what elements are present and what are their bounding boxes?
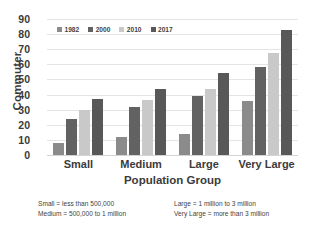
legend-swatch-icon [151, 27, 156, 32]
bar[interactable] [116, 137, 127, 155]
bar[interactable] [92, 99, 103, 155]
footnote: Large = 1 million to 3 million [166, 200, 306, 207]
x-axis-ticks: SmallMediumLargeVery Large [47, 158, 298, 170]
y-axis-tick-label: 20 [8, 119, 30, 131]
y-axis-tick-label: 60 [8, 58, 30, 70]
x-axis-tick-label: Small [47, 158, 110, 170]
x-axis-tick-label: Large [173, 158, 236, 170]
legend-label: 2010 [127, 26, 142, 33]
legend-label: 2017 [158, 26, 173, 33]
footnote: Small = less than 500,000 [38, 200, 166, 207]
footnote: Medium = 500,000 to 1 million [38, 210, 166, 217]
y-axis-tick-label: 80 [8, 28, 30, 40]
bar[interactable] [53, 143, 64, 155]
bar[interactable] [255, 67, 266, 155]
bar[interactable] [268, 53, 279, 155]
bar[interactable] [179, 134, 190, 155]
footnotes: Small = less than 500,000Medium = 500,00… [38, 200, 306, 217]
bar-group [235, 19, 298, 155]
legend-item[interactable]: 1982 [57, 26, 79, 33]
legend: 1982200020102017 [57, 26, 173, 33]
y-axis-tick-label: 70 [8, 43, 30, 55]
footnote: Very Large = more than 3 million [166, 210, 306, 217]
footnotes-left-column: Small = less than 500,000Medium = 500,00… [38, 200, 166, 217]
bar[interactable] [242, 101, 253, 155]
legend-swatch-icon [57, 27, 62, 32]
footnotes-right-column: Large = 1 million to 3 millionVery Large… [166, 200, 306, 217]
x-axis-title: Population Group [47, 174, 298, 186]
bar[interactable] [66, 119, 77, 155]
bar[interactable] [129, 107, 140, 155]
y-axis-tick-label: 0 [8, 149, 30, 161]
legend-swatch-icon [88, 27, 93, 32]
bar[interactable] [79, 110, 90, 155]
bar[interactable] [205, 89, 216, 155]
x-axis-tick-label: Medium [110, 158, 173, 170]
y-axis-tick-label: 10 [8, 134, 30, 146]
y-axis-tick-label: 90 [8, 13, 30, 25]
legend-item[interactable]: 2010 [119, 26, 141, 33]
chart-container: Commuter 9080706050403020100 SmallMedium… [0, 0, 311, 232]
plot-area: 9080706050403020100 [47, 19, 298, 155]
gridline [47, 155, 298, 156]
bar-group [47, 19, 110, 155]
bar[interactable] [155, 89, 166, 155]
bar[interactable] [218, 73, 229, 155]
bar-groups [47, 19, 298, 155]
bar[interactable] [142, 100, 153, 155]
bar-group [173, 19, 236, 155]
y-axis-tick-label: 40 [8, 89, 30, 101]
legend-swatch-icon [119, 27, 124, 32]
bar-group [110, 19, 173, 155]
bar[interactable] [192, 96, 203, 155]
bar[interactable] [281, 30, 292, 155]
y-axis-tick-label: 50 [8, 73, 30, 85]
legend-item[interactable]: 2000 [88, 26, 110, 33]
legend-label: 2000 [96, 26, 111, 33]
legend-label: 1982 [65, 26, 80, 33]
y-axis-tick-label: 30 [8, 104, 30, 116]
x-axis-tick-label: Very Large [235, 158, 298, 170]
legend-item[interactable]: 2017 [151, 26, 173, 33]
